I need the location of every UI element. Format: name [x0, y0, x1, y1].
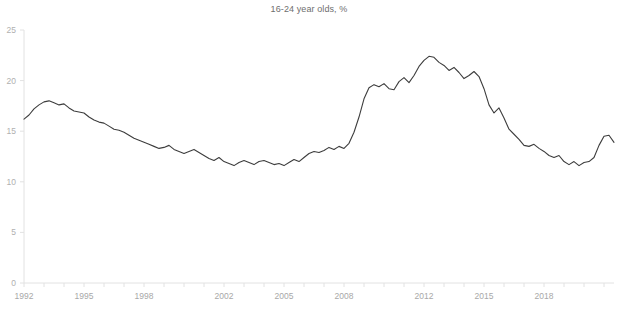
data-series-line	[24, 56, 614, 165]
y-axis-tick-label: 10	[7, 177, 17, 187]
x-axis-tick-label: 2018	[535, 291, 554, 301]
chart-container: 16-24 year olds, % 051015202519921995199…	[0, 0, 618, 315]
y-axis-tick-label: 20	[7, 76, 17, 86]
x-axis-tick-label: 1998	[135, 291, 154, 301]
x-axis-tick-label: 2005	[275, 291, 294, 301]
y-axis-tick-label: 15	[7, 126, 17, 136]
y-axis-tick-label: 25	[7, 25, 17, 35]
y-axis-tick-label: 5	[11, 227, 16, 237]
x-axis-tick-label: 1992	[15, 291, 34, 301]
y-axis-tick-label: 0	[11, 278, 16, 288]
x-axis-tick-label: 2015	[475, 291, 494, 301]
line-chart-plot: 0510152025199219951998200220052008201220…	[0, 0, 618, 315]
x-axis-tick-label: 2008	[335, 291, 354, 301]
x-axis-tick-label: 2002	[215, 291, 234, 301]
x-axis-tick-label: 2012	[415, 291, 434, 301]
x-axis-tick-label: 1995	[75, 291, 94, 301]
